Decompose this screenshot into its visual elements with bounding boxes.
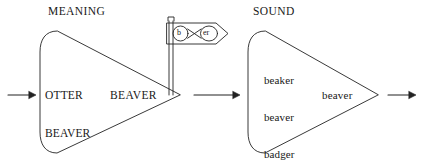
sound-word-1: beaver (264, 111, 296, 123)
meaning-word-list: OTTER BEAVER BADGER RABBIT (45, 63, 93, 164)
input-arrow (8, 91, 36, 98)
flag-pole (168, 17, 174, 95)
output-arrow (388, 91, 416, 98)
sound-word-0: beaker (264, 74, 296, 86)
meaning-word-0: OTTER (45, 89, 93, 102)
meaning-word-1: BEAVER (45, 127, 93, 140)
sound-word-list: beaker beaver badger bearer beggar burgl… (264, 49, 296, 164)
meaning-apex-label: BEAVER (110, 89, 157, 102)
middle-arrow (194, 91, 240, 98)
sound-word-2: badger (264, 148, 296, 160)
meaning-title: MEANING (48, 5, 105, 18)
sound-apex-label: beaver (322, 89, 353, 101)
diagram-canvas: MEANING OTTER BEAVER BADGER RABBIT BEAVE… (0, 0, 422, 164)
flag-node-er-label: er (203, 29, 209, 38)
sound-title: SOUND (253, 5, 295, 18)
flag-node-b-label: b (177, 29, 181, 38)
